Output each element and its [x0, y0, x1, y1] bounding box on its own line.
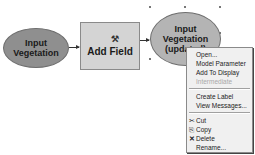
hammer-tool-icon: ⚒: [111, 35, 119, 44]
copy-icon: ⎘: [189, 125, 194, 134]
menu-item-create-label[interactable]: Create Label: [187, 92, 252, 101]
menu-item-model-parameter[interactable]: Model Parameter: [187, 59, 252, 68]
menu-item-view-messages[interactable]: View Messages...: [187, 101, 252, 110]
menu-item-copy[interactable]: ⎘ Copy: [187, 125, 252, 134]
node-label: Input Vegetation: [4, 38, 68, 58]
menu-item-intermediate: Intermediate: [187, 77, 252, 86]
connector-arrow: [140, 40, 149, 41]
selection-handle[interactable]: [184, 6, 186, 8]
menu-separator: [189, 112, 250, 114]
menu-item-label: Cut: [196, 117, 206, 124]
menu-item-delete[interactable]: ✕ Delete: [187, 134, 252, 143]
node-label: Add Field: [87, 46, 133, 57]
selection-handle[interactable]: [219, 32, 221, 34]
menu-item-label: Delete: [196, 135, 215, 142]
scissors-icon: ✂: [189, 116, 195, 125]
menu-separator: [189, 88, 250, 90]
menu-item-rename[interactable]: Rename...: [187, 143, 252, 152]
connector-arrow: [69, 47, 79, 48]
menu-item-cut[interactable]: ✂ Cut: [187, 116, 252, 125]
menu-item-label: Copy: [196, 126, 211, 133]
selection-handle[interactable]: [149, 6, 151, 8]
context-menu: Open... Model Parameter Add To Display I…: [186, 47, 253, 153]
menu-item-add-to-display[interactable]: Add To Display: [187, 68, 252, 77]
menu-item-open[interactable]: Open...: [187, 50, 252, 59]
delete-x-icon: ✕: [189, 134, 195, 143]
model-canvas[interactable]: Input Vegetation ⚒ Add Field Input Veget…: [0, 0, 255, 155]
node-input-vegetation[interactable]: Input Vegetation: [3, 28, 69, 68]
selection-handle[interactable]: [219, 6, 221, 8]
node-add-field-tool[interactable]: ⚒ Add Field: [80, 22, 140, 70]
selection-handle[interactable]: [149, 58, 151, 60]
